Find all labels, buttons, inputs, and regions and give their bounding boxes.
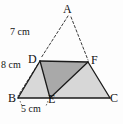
- segment-af: [71, 17, 88, 60]
- vertex-label-c: C: [110, 92, 118, 104]
- measure-label-be: 5 cm: [21, 104, 41, 114]
- measure-label-ad: 7 cm: [10, 27, 30, 37]
- vertex-label-e: E: [48, 93, 55, 105]
- segment-ad: [41, 16, 68, 58]
- vertex-label-f: F: [91, 54, 98, 66]
- vertex-label-a: A: [63, 3, 72, 15]
- vertex-label-d: D: [28, 53, 37, 65]
- measure-label-db: 8 cm: [1, 60, 21, 70]
- vertex-label-b: B: [8, 92, 16, 104]
- geometry-figure: A D F B E C 7 cm 8 cm 5 cm: [0, 0, 123, 124]
